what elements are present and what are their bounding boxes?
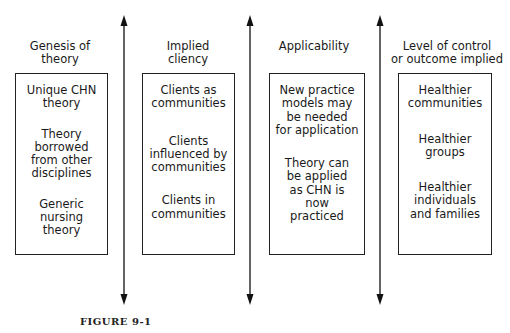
item-unique-chn: Unique CHNtheory bbox=[27, 84, 97, 111]
item-generic: Genericnursing theory bbox=[39, 198, 84, 238]
item-clients-as: Clients ascommunities bbox=[151, 84, 225, 111]
figure-caption: FIGURE 9-1 bbox=[80, 316, 152, 327]
double-arrow-icon bbox=[118, 14, 130, 306]
heading-genesis: Genesis of theory bbox=[10, 40, 110, 66]
item-new-models: New practicemodels may be neededfor appl… bbox=[276, 84, 359, 137]
double-arrow-icon bbox=[244, 14, 256, 306]
heading-line: cliency bbox=[138, 53, 238, 66]
heading-line: or outcome implied bbox=[388, 53, 506, 66]
heading-line: theory bbox=[10, 53, 110, 66]
cliency-box: Clients ascommunities Clientsinfluenced … bbox=[142, 73, 235, 255]
double-arrow-icon bbox=[374, 14, 386, 306]
item-theory-applied: Theory canbe applied as CHN isnow practi… bbox=[285, 157, 349, 223]
item-borrowed: Theoryborrowed from otherdisciplines bbox=[31, 128, 92, 181]
item-clients-in: Clients incommunities bbox=[151, 194, 225, 221]
applicability-box: New practicemodels may be neededfor appl… bbox=[269, 73, 365, 255]
level-box: Healthiercommunities Healthiergroups Hea… bbox=[398, 73, 492, 255]
item-clients-influenced: Clientsinfluenced by communities bbox=[150, 135, 228, 175]
heading-level: Level of control or outcome implied bbox=[388, 40, 506, 66]
heading-cliency: Implied cliency bbox=[138, 40, 238, 66]
heading-line: Applicability bbox=[262, 40, 366, 53]
item-healthier-communities: Healthiercommunities bbox=[408, 84, 482, 111]
heading-applicability: Applicability bbox=[262, 40, 366, 53]
item-healthier-groups: Healthiergroups bbox=[419, 133, 472, 160]
genesis-box: Unique CHNtheory Theoryborrowed from oth… bbox=[15, 73, 108, 255]
item-healthier-individuals: Healthierindividuals and families bbox=[410, 181, 480, 221]
